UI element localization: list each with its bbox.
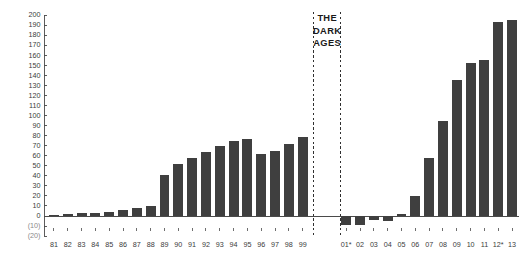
y-tick-label: 40 [33, 171, 41, 180]
x-tick-label: 84 [91, 240, 99, 249]
x-tick-label: 85 [105, 240, 113, 249]
dark-ages-line: DARK [313, 26, 341, 36]
x-tick-label: 94 [230, 240, 238, 249]
bar-02 [355, 216, 365, 225]
bar-10 [466, 63, 476, 216]
y-tick-label: 200 [29, 10, 41, 19]
y-tick-label: 50 [33, 161, 41, 170]
bar-84 [90, 213, 100, 216]
y-tick-label: 130 [29, 81, 41, 90]
bar-81 [49, 215, 59, 216]
bar-93 [215, 146, 225, 216]
y-tick-label: 10 [33, 201, 41, 210]
y-tick-label: 80 [33, 131, 41, 140]
bar-85 [104, 212, 114, 216]
y-tick-label: 0 [37, 211, 41, 220]
y-tick-label: 180 [29, 30, 41, 39]
x-tick-label: 83 [78, 240, 86, 249]
y-tick-label: 160 [29, 51, 41, 60]
x-tick-label: 88 [147, 240, 155, 249]
y-tick-label: 30 [33, 181, 41, 190]
x-tick-label: 92 [202, 240, 210, 249]
x-tick-label: 08 [439, 240, 447, 249]
x-tick-label: 93 [216, 240, 224, 249]
y-tick-label: 150 [29, 61, 41, 70]
bar-98 [284, 144, 294, 216]
bar-06 [410, 196, 420, 216]
dark-ages-line: THE [317, 13, 337, 23]
x-tick-label: 12* [493, 240, 504, 249]
bar-95 [242, 139, 252, 216]
x-tick-label: 98 [285, 240, 293, 249]
x-tick-label: 82 [64, 240, 72, 249]
x-tick-label: 02 [356, 240, 364, 249]
bar-94 [229, 141, 239, 216]
bar-11 [479, 60, 489, 216]
bar-86 [118, 210, 128, 216]
bar-09 [452, 80, 462, 216]
x-tick-label: 09 [453, 240, 461, 249]
x-tick-label: 81 [50, 240, 58, 249]
bar-91 [187, 158, 197, 216]
x-tick-label: 97 [271, 240, 279, 249]
bar-04 [383, 216, 393, 221]
bar-89 [160, 175, 170, 216]
y-tick-label: 20 [33, 191, 41, 200]
x-tick-label: 07 [425, 240, 433, 249]
bar-88 [146, 206, 156, 216]
bar-83 [77, 213, 87, 216]
x-tick-label: 95 [243, 240, 251, 249]
y-tick-label: 90 [33, 121, 41, 130]
y-tick-label: 170 [29, 40, 41, 49]
bar-03 [369, 216, 379, 220]
bar-05 [397, 214, 407, 216]
y-tick-label: 110 [29, 101, 40, 110]
x-tick-label: 91 [188, 240, 196, 249]
bar-87 [132, 208, 142, 216]
bar-90 [173, 164, 183, 216]
y-tick-label: 60 [33, 151, 41, 160]
bar-99 [298, 137, 308, 216]
x-tick-label: 04 [384, 240, 392, 249]
x-tick-label: 01* [341, 240, 352, 249]
y-tick-label: 100 [29, 111, 41, 120]
bar-97 [270, 151, 280, 216]
bar-82 [63, 214, 73, 216]
x-tick-label: 90 [174, 240, 182, 249]
x-tick-label: 89 [160, 240, 168, 249]
bar-chart: 2001901801701601501401301201101009080706… [0, 0, 525, 263]
bar-07 [424, 158, 434, 216]
dark-ages-line: AGES [313, 38, 341, 48]
x-tick-label: 11 [481, 240, 488, 249]
y-tick-label: 140 [29, 71, 41, 80]
y-tick-label: 190 [29, 20, 41, 29]
bar-13 [507, 20, 517, 216]
x-tick-label: 87 [133, 240, 141, 249]
y-tick-label: (20) [28, 231, 41, 240]
y-tick-label: 70 [33, 141, 41, 150]
x-tick-label: 10 [467, 240, 475, 249]
y-tick-label: (10) [28, 221, 41, 230]
x-tick-label: 99 [299, 240, 307, 249]
bar-12star [493, 22, 503, 216]
x-tick-label: 86 [119, 240, 127, 249]
chart-canvas: 2001901801701601501401301201101009080706… [0, 0, 525, 263]
x-tick-label: 06 [411, 240, 419, 249]
bar-96 [256, 154, 266, 216]
x-tick-label: 03 [370, 240, 378, 249]
x-tick-label: 05 [398, 240, 406, 249]
x-tick-label: 96 [257, 240, 265, 249]
bar-01star [341, 216, 351, 225]
bar-92 [201, 152, 211, 216]
bar-08 [438, 121, 448, 216]
y-tick-label: 120 [29, 91, 41, 100]
x-tick-label: 13 [508, 240, 516, 249]
